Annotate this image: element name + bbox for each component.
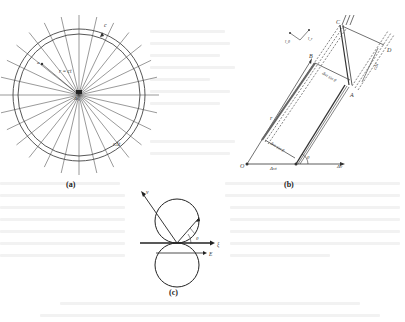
label-lower-dt: Δvt sin θ: [269, 140, 286, 153]
point-a-marker: [41, 63, 43, 65]
label-upper-dt: Δvt sin θ: [321, 70, 338, 83]
label-C: C: [336, 19, 341, 25]
label-B: B: [309, 53, 313, 59]
field-line-lower: [296, 85, 345, 164]
caption-a: (a): [66, 180, 76, 189]
label-origin: Δt₀: [73, 96, 80, 101]
figure-canvas: c r = ct a Δt₀ cΔt (a): [0, 0, 405, 322]
radial-field-lines: [0, 15, 159, 175]
label-theta-b: θ: [307, 155, 310, 160]
label-r: r: [270, 115, 273, 121]
xi-arrowhead-icon: [210, 241, 215, 246]
caption-c: (c): [169, 288, 178, 297]
kink-hatch: [262, 63, 315, 140]
label-v: v: [146, 189, 149, 195]
E-arrowhead-icon: [203, 251, 207, 255]
lower-lobe-circle: [155, 243, 199, 287]
radiation-vector: [177, 219, 198, 243]
label-E: E: [208, 251, 213, 257]
label-O: O: [240, 163, 245, 169]
panel-b: [246, 15, 395, 166]
label-base-dv: Δv: [336, 164, 343, 169]
caption-b: (b): [284, 180, 294, 189]
label-cdt: cΔt: [372, 62, 379, 70]
panel-b-labels: O A B C D r Δvt sin θ Δvt sin θ Δvt Δv θ…: [240, 19, 392, 189]
C-D-line: [342, 26, 384, 45]
label-base-dvt: Δvt: [269, 166, 277, 171]
label-radius: r = ct: [59, 68, 72, 74]
label-unit-r: î_r: [308, 36, 313, 41]
label-unit-theta: î_θ: [285, 39, 290, 44]
panel-c: [140, 191, 215, 287]
label-theta-c: θ: [196, 236, 199, 241]
panel-a: c r = ct a Δt₀ cΔt (a): [0, 15, 159, 189]
unit-theta-vector: [290, 33, 300, 40]
label-shell-thickness: cΔt: [113, 141, 121, 147]
label-c: c: [104, 22, 107, 28]
label-D: D: [386, 47, 392, 53]
label-A: A: [349, 92, 354, 98]
label-xi: ξ: [217, 241, 220, 248]
label-a: a: [37, 60, 40, 65]
dashed-shell-lines: [262, 25, 346, 144]
